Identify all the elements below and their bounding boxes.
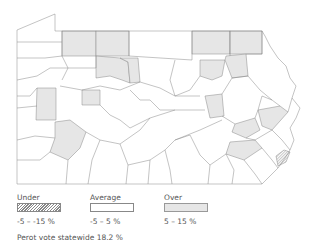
legend-under-swatch [17, 203, 61, 212]
legend-over-label: Over [164, 193, 182, 202]
statewide-note: Perot vote statewide 18.2 % [17, 233, 123, 242]
over-counties [36, 31, 288, 160]
legend-over-range: 5 – 15 % [164, 217, 196, 226]
legend-under-range: -5 – -15 % [17, 217, 55, 226]
legend-average-swatch [90, 203, 134, 212]
legend-average-range: -5 – 5 % [90, 217, 120, 226]
pennsylvania-county-map [0, 0, 317, 190]
legend-over-swatch [164, 203, 208, 212]
under-county-philadelphia [276, 150, 290, 166]
legend-average-label: Average [90, 193, 121, 202]
legend-under-label: Under [17, 193, 40, 202]
